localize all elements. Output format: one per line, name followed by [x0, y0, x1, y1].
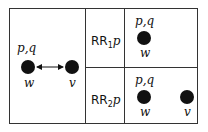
pq-label-row1: p,q — [135, 15, 154, 27]
rule-arg: p — [113, 34, 121, 48]
w-label-row2: w — [140, 106, 150, 118]
rule-prefix: RR — [91, 34, 108, 48]
w-label-row1: w — [140, 47, 150, 59]
v-label-row2: v — [184, 106, 191, 118]
rule-label-rr1: RR1p — [91, 35, 120, 50]
rule-prefix: RR — [91, 93, 108, 107]
bidirectional-arrow-icon — [0, 0, 208, 132]
pq-label-row2: p,q — [135, 74, 154, 86]
rule-label-rr2: RR2p — [91, 94, 120, 109]
node-w-row1 — [137, 31, 151, 45]
node-w-row2 — [137, 90, 151, 104]
node-v-row2 — [180, 90, 194, 104]
rule-arg: p — [113, 93, 121, 107]
